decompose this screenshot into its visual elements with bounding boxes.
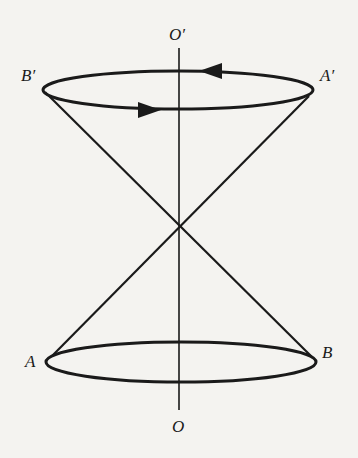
- label-a: A: [25, 353, 35, 370]
- bottom-circle: [46, 342, 316, 382]
- label-a-prime: A′: [320, 67, 334, 84]
- label-o-prime: O′: [169, 26, 185, 43]
- arrow-right-icon: [138, 102, 161, 118]
- arrow-left-icon: [199, 63, 222, 79]
- top-circle: [43, 71, 313, 109]
- label-b: B: [322, 344, 332, 361]
- double-cone-diagram: [0, 0, 358, 458]
- label-b-prime: B′: [21, 67, 35, 84]
- label-o: O: [172, 418, 184, 435]
